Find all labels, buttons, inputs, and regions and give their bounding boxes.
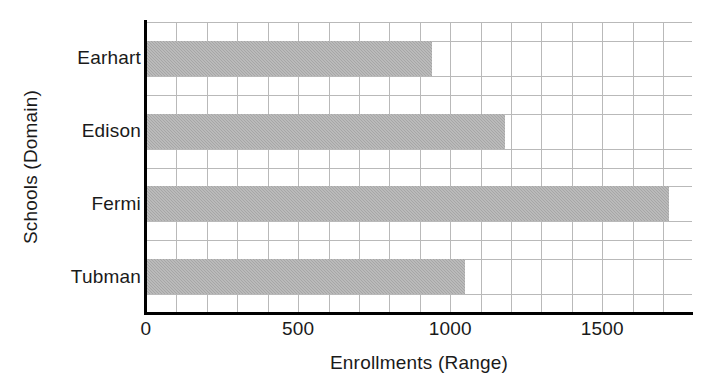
x-tick-label-500: 500: [238, 318, 358, 340]
y-tick-label-earhart: Earhart: [1, 48, 141, 67]
x-axis-title: Enrollments (Range): [146, 352, 692, 374]
bar: [146, 114, 505, 149]
y-tick-label-edison: Edison: [1, 121, 141, 140]
x-axis-tick-labels: 050010001500: [0, 318, 708, 348]
bar-chart-figure: Schools (Domain) EarhartEdisonFermiTubma…: [0, 0, 708, 391]
x-axis-spine: [144, 312, 693, 315]
plot-area: [146, 22, 692, 313]
y-tick-label-tubman: Tubman: [1, 267, 141, 286]
bar: [146, 41, 432, 76]
bar: [146, 259, 465, 294]
bar: [146, 186, 669, 221]
x-tick-label-1500: 1500: [542, 318, 662, 340]
x-tick-label-1000: 1000: [390, 318, 510, 340]
y-axis-spine: [144, 20, 147, 315]
y-tick-label-fermi: Fermi: [1, 194, 141, 213]
x-tick-label-0: 0: [86, 318, 206, 340]
bar-series: [146, 22, 692, 313]
